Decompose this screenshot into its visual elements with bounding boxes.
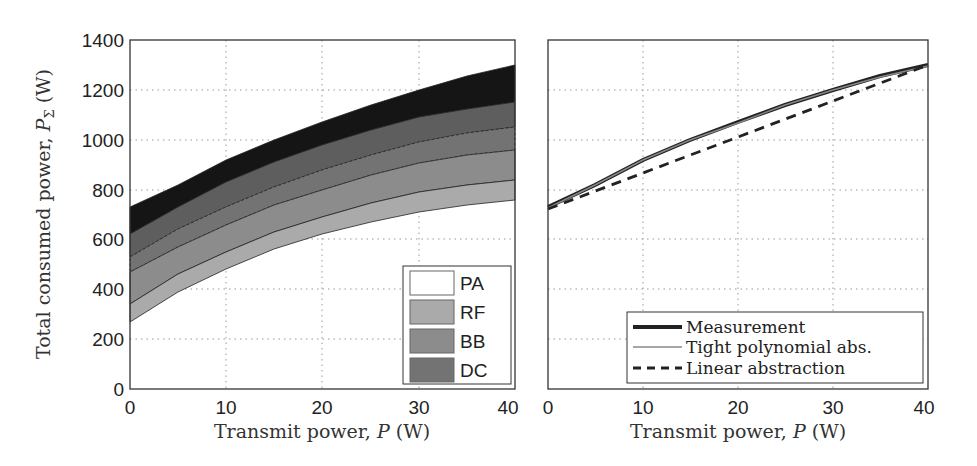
- left-y-ticks: 0 200 400 600 800 1000 1200 1400: [82, 30, 124, 400]
- svg-text:800: 800: [92, 180, 124, 201]
- legend-swatch-dc: [410, 358, 454, 382]
- linear-abstraction-line: [548, 65, 928, 209]
- svg-text:20: 20: [727, 397, 748, 418]
- svg-text:0: 0: [125, 397, 136, 418]
- left-legend: PA RF BB DC: [403, 266, 511, 384]
- svg-text:40: 40: [913, 397, 934, 418]
- svg-text:0: 0: [113, 379, 124, 400]
- left-x-ticks: 0 10 20 30 40: [125, 397, 519, 418]
- left-plot: 0 200 400 600 800 1000 1200 1400 0 10 20…: [32, 30, 519, 442]
- svg-text:Tight polynomial abs.: Tight polynomial abs.: [686, 337, 872, 357]
- svg-text:0: 0: [543, 397, 554, 418]
- svg-text:30: 30: [822, 397, 843, 418]
- svg-text:BB: BB: [460, 331, 485, 352]
- svg-text:600: 600: [92, 229, 124, 250]
- svg-text:20: 20: [311, 397, 332, 418]
- legend-swatch-bb: [410, 329, 454, 353]
- svg-text:PA: PA: [460, 273, 484, 294]
- figure: 0 200 400 600 800 1000 1200 1400 0 10 20…: [0, 0, 977, 466]
- svg-text:400: 400: [92, 279, 124, 300]
- legend-swatch-rf: [410, 300, 454, 324]
- right-x-ticks: 0 10 20 30 40: [543, 397, 935, 418]
- left-y-axis-label: Total consumed power, PΣ (W): [32, 69, 57, 359]
- svg-text:Linear abstraction: Linear abstraction: [686, 358, 845, 378]
- svg-text:Measurement: Measurement: [686, 317, 806, 337]
- svg-text:10: 10: [632, 397, 653, 418]
- left-x-axis-label: Transmit power, P (W): [214, 420, 430, 442]
- svg-text:1000: 1000: [82, 130, 124, 151]
- svg-text:40: 40: [497, 397, 518, 418]
- right-x-axis-label: Transmit power, P (W): [630, 420, 846, 442]
- legend-swatch-pa: [410, 271, 454, 295]
- right-legend: Measurement Tight polynomial abs. Linear…: [627, 312, 923, 383]
- svg-text:1200: 1200: [82, 80, 124, 101]
- svg-text:1400: 1400: [82, 30, 124, 51]
- svg-text:10: 10: [215, 397, 236, 418]
- svg-text:RF: RF: [460, 302, 485, 323]
- svg-text:200: 200: [92, 329, 124, 350]
- svg-text:DC: DC: [460, 360, 487, 381]
- svg-text:30: 30: [408, 397, 429, 418]
- right-plot: 0 10 20 30 40 Transmit power, P (W) Meas…: [543, 40, 935, 442]
